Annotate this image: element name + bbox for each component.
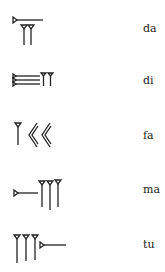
sign-label-tu: tu: [143, 239, 155, 250]
sign-row-tu: tu: [0, 0, 165, 272]
cuneiform-tu-icon: [0, 0, 75, 272]
